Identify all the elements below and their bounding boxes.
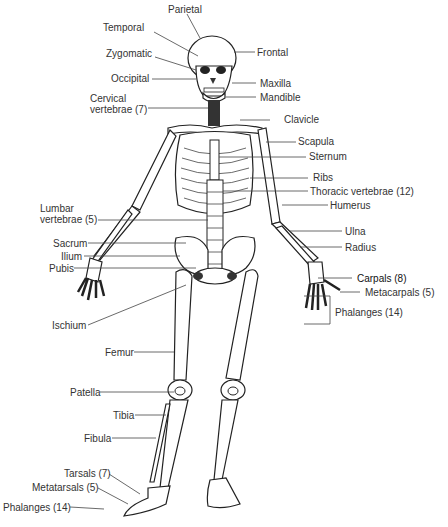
label-ilium: Ilium: [61, 251, 82, 262]
lumbar-spine: [207, 180, 223, 280]
left-leg: [207, 270, 258, 508]
label-thoracic: Thoracic vertebrae (12): [310, 186, 414, 197]
label-ischium: Ischium: [52, 320, 86, 331]
label-humerus: Humerus: [330, 200, 371, 211]
label-lumbar-1: Lumbar: [40, 203, 74, 214]
label-maxilla: Maxilla: [260, 78, 291, 89]
label-zygomatic: Zygomatic: [106, 48, 152, 59]
label-tarsals: Tarsals (7): [64, 468, 111, 479]
label-temporal: Temporal: [103, 22, 144, 33]
label-fibula: Fibula: [84, 433, 111, 444]
label-mandible: Mandible: [260, 92, 301, 103]
label-cervical-1: Cervical: [90, 93, 126, 104]
label-foot-phalanges: Phalanges (14): [3, 502, 71, 513]
label-patella: Patella: [70, 387, 101, 398]
label-femur: Femur: [105, 347, 134, 358]
label-metatarsals: Metatarsals (5): [32, 482, 99, 493]
right-leg: [124, 270, 192, 516]
label-pubis: Pubis: [49, 263, 74, 274]
label-lumbar-2: vertebrae (5): [40, 214, 97, 225]
label-frontal: Frontal: [257, 47, 288, 58]
label-parietal: Parietal: [168, 4, 202, 15]
label-sacrum: Sacrum: [53, 238, 87, 249]
label-ulna: Ulna: [345, 226, 366, 237]
label-carpals: Carpals (8): [357, 273, 406, 284]
label-tibia: Tibia: [113, 410, 134, 421]
skull: [188, 36, 236, 102]
skeleton-diagram: Parietal Temporal Zygomatic Occipital Fr…: [0, 0, 448, 527]
label-clavicle: Clavicle: [284, 114, 319, 125]
label-scapula: Scapula: [298, 136, 334, 147]
label-sternum: Sternum: [309, 151, 347, 162]
label-hand-phalanges: Phalanges (14): [335, 307, 403, 318]
label-ribs: Ribs: [313, 172, 333, 183]
label-cervical-2: vertebrae (7): [90, 104, 147, 115]
label-radius: Radius: [345, 242, 376, 253]
label-metacarpals: Metacarpals (5): [365, 287, 434, 298]
label-occipital: Occipital: [111, 73, 149, 84]
cervical-spine: [208, 100, 220, 126]
